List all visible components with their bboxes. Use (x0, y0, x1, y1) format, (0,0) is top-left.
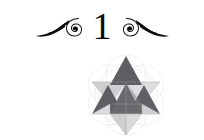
chapter-page: 1 (0, 0, 204, 140)
star-tetrahedron-figure (88, 52, 164, 138)
merkaba-illustration (88, 52, 164, 138)
chapter-number: 1 (91, 7, 114, 45)
right-flourish (114, 12, 170, 42)
facet-top-spike (110, 56, 142, 85)
chapter-heading: 1 (0, 4, 204, 50)
left-flourish (35, 12, 91, 42)
swash-flourish-right-icon (118, 12, 170, 42)
swash-flourish-left-icon (35, 12, 87, 42)
